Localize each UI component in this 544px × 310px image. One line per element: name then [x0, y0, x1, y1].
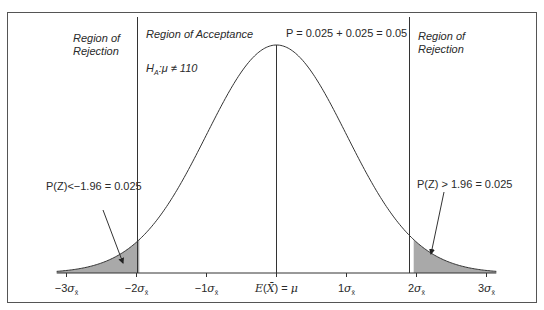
x-tick-label: 1σx̄: [338, 282, 355, 296]
x-tick-label: 2σx̄: [408, 282, 425, 296]
right-rejection-label: Region of Rejection: [418, 30, 465, 56]
x-tick-label: −1σx̄: [195, 282, 219, 296]
x-tick-label: −2σx̄: [125, 282, 149, 296]
left-rejection-label: Region of Rejection: [73, 32, 120, 58]
right-rejection-area: [414, 240, 497, 273]
left-rejection-area: [57, 240, 140, 273]
x-tick-label: 3σx̄: [478, 282, 495, 296]
left-tail-probability-label: P(Z)<−1.96 = 0.025: [46, 180, 142, 193]
x-tick-label: −3σx̄: [55, 282, 79, 296]
total-probability-label: P = 0.025 + 0.025 = 0.05: [286, 27, 407, 40]
x-tick-label: E(X̄) = μ: [255, 282, 298, 295]
right-tail-probability-label: P(Z) > 1.96 = 0.025: [417, 178, 512, 191]
hypothesis-label: HA:μ ≠ 110: [146, 62, 197, 79]
right-tail-arrow: [431, 192, 444, 254]
left-tail-arrow: [103, 210, 123, 263]
x-axis-ticks: [67, 273, 487, 277]
acceptance-label: Region of Acceptance: [146, 28, 253, 41]
